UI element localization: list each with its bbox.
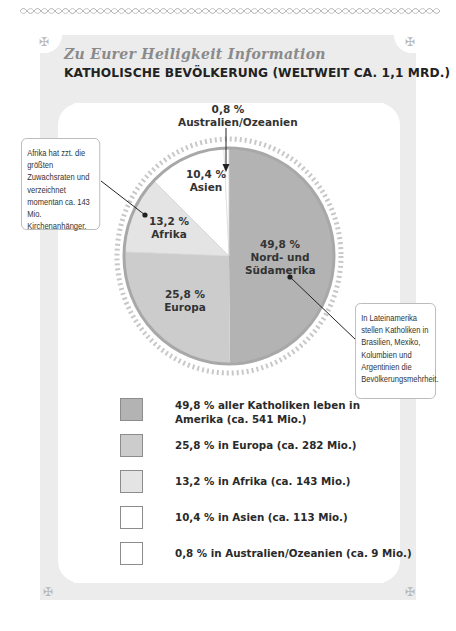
legend-label: 13,2 % in Afrika (ca. 143 Mio.)	[175, 474, 351, 488]
callout-latin-america: In Lateinamerika stellen Katholiken in B…	[355, 303, 436, 399]
legend-label: 25,8 % in Europa (ca. 282 Mio.)	[175, 438, 357, 452]
legend-swatch	[120, 434, 143, 457]
legend-item-europa: 25,8 % in Europa (ca. 282 Mio.)	[120, 434, 357, 457]
slice-label-asien: 10,4 % Asien	[178, 168, 234, 194]
slice-label-afrika: 13,2 % Afrika	[144, 215, 194, 241]
legend-label: 10,4 % in Asien (ca. 113 Mio.)	[175, 510, 348, 524]
legend-item-asien: 10,4 % in Asien (ca. 113 Mio.)	[120, 506, 348, 529]
callout-africa: Afrika hat zzt. die größten Zuwachsraten…	[21, 138, 100, 230]
legend-label: Amerika (ca. 541 Mio.)	[175, 412, 360, 426]
legend-label: 0,8 % in Australien/Ozeanien (ca. 9 Mio.…	[175, 546, 412, 560]
legend-item-afrika: 13,2 % in Afrika (ca. 143 Mio.)	[120, 470, 351, 493]
legend-item-amerika: 49,8 % aller Katholiken leben in Amerika…	[120, 398, 360, 426]
slice-label-ozeanien: 0,8 % Australien/Ozeanien	[178, 103, 278, 129]
legend-swatch	[120, 542, 143, 565]
slice-label-amerika: 49,8 % Nord- und Südamerika	[235, 238, 325, 277]
legend-swatch	[120, 506, 143, 529]
legend-swatch	[120, 470, 143, 493]
legend-swatch	[120, 398, 143, 421]
legend-label: 49,8 % aller Katholiken leben in	[175, 398, 360, 412]
slice-label-europa: 25,8 % Europa	[150, 288, 220, 314]
legend-item-ozeanien: 0,8 % in Australien/Ozeanien (ca. 9 Mio.…	[120, 542, 412, 565]
